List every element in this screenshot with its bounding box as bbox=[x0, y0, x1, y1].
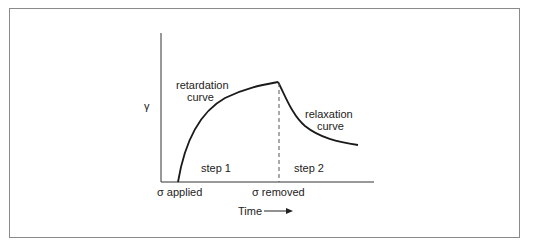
x-axis-label: Time bbox=[238, 205, 262, 217]
retardation-label-1: retardation bbox=[176, 79, 229, 91]
sigma-removed-label: σ removed bbox=[252, 186, 305, 198]
creep-recovery-diagram: γ retardation curve relaxation curve ste… bbox=[0, 0, 533, 246]
y-axis-label: γ bbox=[144, 100, 150, 112]
sigma-applied-label: σ applied bbox=[157, 186, 202, 198]
time-arrow-icon bbox=[286, 208, 293, 214]
relaxation-label-2: curve bbox=[317, 120, 344, 132]
relaxation-label-1: relaxation bbox=[305, 108, 353, 120]
step2-label: step 2 bbox=[294, 162, 324, 174]
step1-label: step 1 bbox=[201, 162, 231, 174]
retardation-label-2: curve bbox=[187, 91, 214, 103]
